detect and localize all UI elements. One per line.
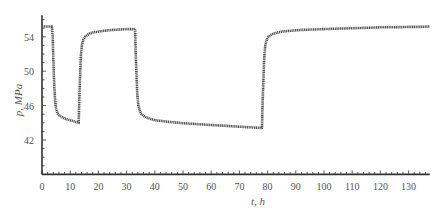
y-tick-label: 50: [24, 66, 34, 77]
y-axis-label: p, MPa: [12, 83, 24, 117]
chart-canvas: 010203040506070809010011012013042465054 …: [0, 0, 443, 217]
x-tick-label: 60: [206, 181, 216, 192]
y-tick-label: 46: [24, 101, 34, 112]
x-tick-label: 110: [345, 181, 360, 192]
tick-labels: 010203040506070809010011012013042465054: [24, 32, 416, 193]
x-tick-label: 130: [401, 181, 416, 192]
y-tick-label: 54: [24, 32, 34, 43]
axis-ticks: [42, 20, 426, 175]
x-tick-label: 40: [150, 181, 160, 192]
x-tick-label: 0: [40, 181, 45, 192]
x-tick-label: 90: [291, 181, 301, 192]
x-tick-label: 70: [234, 181, 244, 192]
x-tick-label: 100: [317, 181, 332, 192]
x-tick-label: 50: [178, 181, 188, 192]
x-axis-label: t, h: [251, 195, 266, 207]
x-tick-label: 30: [122, 181, 132, 192]
x-tick-label: 10: [65, 181, 75, 192]
x-tick-label: 120: [373, 181, 388, 192]
y-tick-label: 42: [24, 135, 34, 146]
pressure-line: [42, 27, 430, 129]
x-tick-label: 20: [93, 181, 103, 192]
x-tick-label: 80: [263, 181, 273, 192]
pressure-time-chart: 010203040506070809010011012013042465054 …: [0, 0, 443, 217]
axes: [42, 15, 430, 174]
